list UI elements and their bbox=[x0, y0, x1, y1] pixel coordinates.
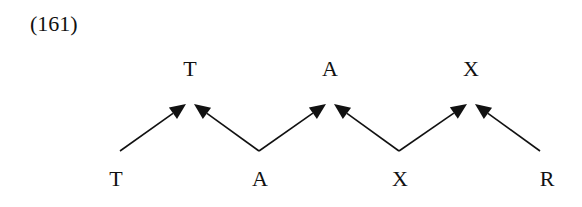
arrowhead-icon bbox=[475, 104, 492, 119]
edge-line bbox=[259, 113, 313, 151]
arrowhead-icon bbox=[450, 104, 467, 119]
arrowhead-icon bbox=[309, 104, 326, 119]
edge-line bbox=[399, 113, 454, 151]
arrowhead-icon bbox=[194, 104, 211, 119]
zigzag-arrow-diagram bbox=[0, 0, 582, 207]
edge-line bbox=[120, 113, 173, 151]
arrowhead-icon bbox=[334, 104, 351, 119]
edge-line bbox=[347, 113, 399, 151]
edge-line bbox=[488, 113, 540, 151]
edge-line bbox=[207, 113, 259, 151]
arrowhead-icon bbox=[169, 104, 186, 119]
